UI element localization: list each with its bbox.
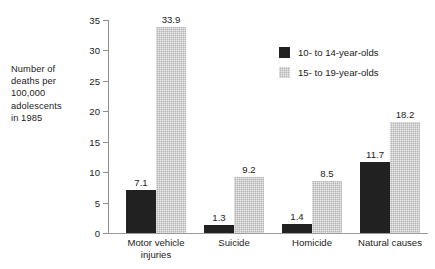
y-axis-label-line: adolescents [11, 100, 91, 112]
bar-value-label: 9.2 [242, 164, 255, 175]
x-category-label-line: Motor vehicle [127, 237, 184, 249]
legend-swatch-icon [279, 47, 290, 58]
y-axis-label-line: 100,000 [11, 87, 91, 99]
x-category-label-suicide: Suicide [218, 237, 249, 249]
legend-label: 15- to 19-year-olds [298, 67, 379, 78]
y-axis-label: Number of deaths per 100,000 adolescents… [11, 63, 91, 124]
x-category-label-homicide: Homicide [292, 237, 332, 249]
bar-natural-causes-10-14[interactable]: 11.7 [360, 162, 390, 233]
y-tick-label: 20 [89, 106, 100, 117]
y-axis-label-line: deaths per [11, 75, 91, 87]
legend-label: 10- to 14-year-olds [298, 47, 379, 58]
bar-value-label: 11.7 [366, 149, 384, 160]
x-category-label-line: Natural causes [358, 237, 422, 249]
bars-layer: 7.1 33.9 1.3 9.2 1.4 8.5 11.7 [108, 15, 428, 233]
plot-area: 0 5 10 15 20 25 30 35 [108, 15, 428, 233]
bar-chart-figure: Number of deaths per 100,000 adolescents… [0, 0, 435, 269]
bar-homicide-15-19[interactable]: 8.5 [312, 181, 342, 233]
bar-suicide-15-19[interactable]: 9.2 [234, 177, 264, 233]
y-tick-label: 5 [95, 197, 100, 208]
legend-item-10-14[interactable]: 10- to 14-year-olds [279, 42, 379, 62]
bar-homicide-10-14[interactable]: 1.4 [282, 224, 312, 233]
y-tick-label: 30 [89, 45, 100, 56]
y-tick-label: 25 [89, 75, 100, 86]
y-axis-label-line: Number of [11, 63, 91, 75]
x-axis-line [108, 233, 428, 234]
x-category-label-natural-causes: Natural causes [358, 237, 422, 249]
y-tick-label: 15 [89, 136, 100, 147]
y-tick-label: 10 [89, 167, 100, 178]
x-category-label-line: Suicide [218, 237, 249, 249]
legend: 10- to 14-year-olds 15- to 19-year-olds [279, 42, 379, 82]
bar-motor-vehicle-injuries-15-19[interactable]: 33.9 [156, 27, 186, 233]
bar-motor-vehicle-injuries-10-14[interactable]: 7.1 [126, 190, 156, 233]
legend-item-15-19[interactable]: 15- to 19-year-olds [279, 62, 379, 82]
bar-value-label: 18.2 [396, 109, 415, 120]
bar-value-label: 1.3 [212, 212, 225, 223]
bar-value-label: 7.1 [134, 177, 147, 188]
y-axis-label-line: in 1985 [11, 112, 91, 124]
x-category-label-line: Homicide [292, 237, 332, 249]
bar-natural-causes-15-19[interactable]: 18.2 [390, 122, 420, 233]
bar-value-label: 1.4 [290, 211, 303, 222]
legend-swatch-icon [279, 67, 290, 78]
y-tick-label: 0 [95, 228, 100, 239]
bar-value-label: 8.5 [320, 168, 333, 179]
bar-suicide-10-14[interactable]: 1.3 [204, 225, 234, 233]
y-tick-label: 35 [89, 15, 100, 26]
x-category-label-motor-vehicle-injuries: Motor vehicle injuries [127, 237, 184, 260]
x-category-label-line: injuries [127, 249, 184, 261]
bar-value-label: 33.9 [162, 14, 181, 25]
